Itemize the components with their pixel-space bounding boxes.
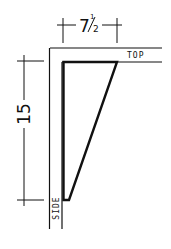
height-label: 15	[14, 103, 34, 125]
bracket-diagram: 7 1 2 15 TOP SIDE	[0, 0, 171, 249]
top-board	[50, 48, 162, 62]
bracket-gusset	[64, 62, 118, 200]
height-dimension	[17, 55, 44, 206]
width-label: 7	[79, 16, 90, 36]
side-label: SIDE	[52, 196, 61, 219]
width-label-fraction-den: 2	[93, 24, 99, 34]
top-label: TOP	[127, 51, 144, 60]
